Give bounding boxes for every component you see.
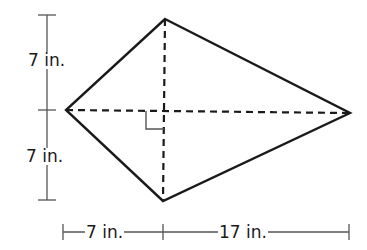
kite-diagram bbox=[0, 0, 367, 250]
right-horizontal-label: 17 in. bbox=[218, 224, 268, 241]
right-angle-marker bbox=[146, 111, 164, 129]
lower-vertical-label: 7 in. bbox=[25, 148, 64, 165]
upper-vertical-label: 7 in. bbox=[27, 52, 66, 69]
horizontal-diagonal bbox=[66, 110, 350, 113]
left-horizontal-label: 7 in. bbox=[85, 224, 124, 241]
vertical-dimension-bracket bbox=[38, 15, 56, 200]
